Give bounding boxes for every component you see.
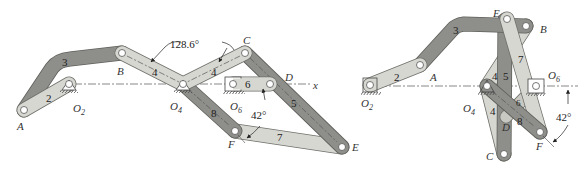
link-number-5-right: 5 — [503, 70, 509, 82]
joint-b — [119, 50, 126, 57]
label-b-right: B — [540, 23, 547, 35]
left-mechanism: A B C D E F x O2 O4 O6 2 3 4 4 5 6 7 8 1… — [0, 0, 359, 153]
joint-f — [232, 128, 239, 135]
label-b: B — [117, 65, 124, 77]
joint-b-right — [523, 23, 530, 30]
label-x-axis: x — [312, 79, 318, 91]
joint-o4-right — [484, 83, 491, 90]
joint-a — [21, 107, 28, 114]
label-a-right: A — [429, 71, 437, 83]
label-o4-right: O4 — [463, 102, 475, 117]
label-c-right: C — [486, 150, 494, 162]
joint-f-right — [537, 129, 544, 136]
link-number-2-right: 2 — [394, 71, 400, 83]
link-number-6: 6 — [245, 78, 251, 90]
angle-label-42-left: 42° — [251, 109, 266, 121]
link-number-8: 8 — [211, 107, 217, 119]
link-number-4a: 4 — [152, 66, 158, 78]
link-number-6-right: 6 — [516, 98, 521, 108]
joint-e — [339, 144, 346, 151]
label-f: F — [227, 138, 235, 150]
link-number-4a-right: 4 — [492, 70, 498, 82]
joint-e-right — [504, 16, 511, 23]
label-c: C — [243, 34, 251, 46]
link-number-8-right: 8 — [517, 115, 523, 127]
label-a: A — [16, 120, 24, 132]
link-number-5: 5 — [291, 97, 297, 109]
label-e: E — [351, 141, 359, 153]
label-o6-right: O6 — [548, 69, 560, 84]
link-number-4b-right: 4 — [490, 105, 496, 117]
label-f-right: F — [535, 140, 543, 152]
joint-o6-right — [533, 83, 540, 90]
link-number-4b: 4 — [211, 66, 217, 78]
label-e-right: E — [492, 7, 500, 19]
label-o2: O2 — [73, 102, 85, 117]
label-o6: O6 — [230, 100, 242, 115]
joint-a-right — [417, 62, 424, 69]
label-d: D — [284, 71, 293, 83]
link-number-3: 3 — [62, 56, 68, 68]
joint-d — [267, 81, 274, 88]
label-d-right: D — [501, 121, 510, 133]
joint-c — [242, 50, 249, 57]
joint-c-right — [501, 151, 508, 158]
mechanism-figure: A B C D E F x O2 O4 O6 2 3 4 4 5 6 7 8 1… — [0, 0, 586, 170]
link-number-3-right: 3 — [453, 24, 459, 36]
joint-o2 — [66, 81, 73, 88]
joint-o6 — [230, 81, 237, 88]
joint-o4 — [180, 81, 187, 88]
right-mechanism: A B C D E F O2 O4 O6 2 3 4 4 5 6 7 8 42° — [361, 7, 578, 162]
link-number-7: 7 — [277, 131, 283, 143]
joint-o2-right — [367, 82, 374, 89]
link-5-right — [504, 20, 505, 154]
link-number-2: 2 — [46, 92, 52, 104]
label-o4: O4 — [170, 100, 182, 115]
angle-label-42-right: 42° — [556, 111, 571, 123]
angle-label-128: 128.6° — [170, 38, 199, 50]
label-o2-right: O2 — [361, 97, 373, 112]
link-number-7-right: 7 — [518, 53, 524, 65]
